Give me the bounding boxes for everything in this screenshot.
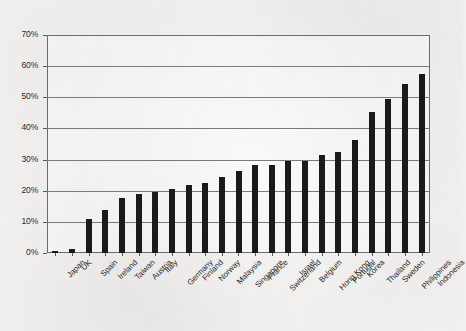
x-tick-mark xyxy=(405,253,406,256)
y-axis-tick-label: 60% xyxy=(4,60,38,70)
x-tick-mark xyxy=(222,253,223,256)
x-axis-tick-label: France xyxy=(266,258,290,282)
y-axis-tick-label: 0% xyxy=(4,247,38,257)
bar xyxy=(236,171,242,253)
bar xyxy=(402,84,408,253)
x-tick-mark xyxy=(422,253,423,256)
x-tick-mark xyxy=(105,253,106,256)
y-axis-tick-label: 40% xyxy=(4,122,38,132)
x-tick-mark xyxy=(72,253,73,256)
x-tick-mark xyxy=(338,253,339,256)
x-axis-tick-label: Belgium xyxy=(317,258,343,284)
x-tick-mark xyxy=(238,253,239,256)
x-tick-mark xyxy=(305,253,306,256)
bar xyxy=(385,99,391,253)
bar xyxy=(152,192,158,253)
y-axis-tick-label: 70% xyxy=(4,29,38,39)
x-tick-mark xyxy=(372,253,373,256)
x-tick-mark xyxy=(122,253,123,256)
bar xyxy=(319,155,325,253)
bar xyxy=(186,185,192,253)
y-axis-tick-label: 50% xyxy=(4,91,38,101)
x-tick-mark xyxy=(155,253,156,256)
x-tick-mark xyxy=(205,253,206,256)
bar xyxy=(335,152,341,253)
bar xyxy=(369,112,375,253)
y-tick-mark xyxy=(43,253,47,254)
bar xyxy=(169,189,175,253)
y-axis-tick-label: 30% xyxy=(4,154,38,164)
bar xyxy=(302,161,308,253)
bar xyxy=(86,219,92,253)
x-tick-mark xyxy=(255,253,256,256)
bar xyxy=(102,210,108,253)
x-tick-mark xyxy=(89,253,90,256)
bar xyxy=(219,177,225,253)
bar xyxy=(352,140,358,253)
x-tick-mark xyxy=(139,253,140,256)
x-tick-mark xyxy=(288,253,289,256)
bars-group xyxy=(47,35,430,253)
x-tick-mark xyxy=(55,253,56,256)
x-tick-mark xyxy=(172,253,173,256)
x-tick-mark xyxy=(189,253,190,256)
x-tick-mark xyxy=(322,253,323,256)
bar xyxy=(119,198,125,253)
bar xyxy=(202,183,208,253)
bar xyxy=(269,165,275,253)
bar xyxy=(285,161,291,253)
x-tick-mark xyxy=(388,253,389,256)
y-axis-tick-label: 20% xyxy=(4,185,38,195)
x-tick-mark xyxy=(272,253,273,256)
x-tick-mark xyxy=(355,253,356,256)
bar xyxy=(136,194,142,253)
bar xyxy=(252,165,258,253)
bar xyxy=(419,74,425,253)
y-axis-tick-label: 10% xyxy=(4,216,38,226)
